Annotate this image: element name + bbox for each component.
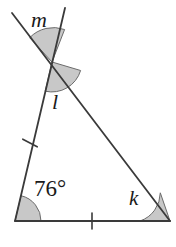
angle-k-arc bbox=[140, 193, 170, 221]
angle-label-76-degrees: 76° bbox=[34, 177, 66, 200]
angle-label-m: m bbox=[31, 9, 47, 31]
geometry-figure: m l k 76° bbox=[0, 0, 176, 247]
angle-label-l: l bbox=[52, 91, 58, 113]
left-side-tick bbox=[23, 139, 37, 147]
angle-label-k: k bbox=[129, 188, 138, 209]
geometry-diagram bbox=[0, 0, 176, 247]
